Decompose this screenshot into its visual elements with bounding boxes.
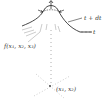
label-surface: f(x₁, x₂, x₃) — [3, 42, 37, 50]
peak-arrow-icon — [49, 1, 53, 10]
label-t: t — [93, 28, 96, 35]
level-curve-t-plus-dt — [42, 10, 60, 12]
diagram-canvas: t + dt t f(x₁, x₂, x₃) (x₁, x₂) — [0, 0, 108, 111]
label-t-plus-dt: t + dt — [84, 14, 102, 21]
label-point: (x₁, x₂) — [56, 85, 77, 92]
level-curve-t — [22, 6, 92, 33]
gradient-arrow-icon — [38, 10, 64, 13]
surface-hatching — [22, 24, 60, 42]
point-marker — [49, 85, 51, 87]
